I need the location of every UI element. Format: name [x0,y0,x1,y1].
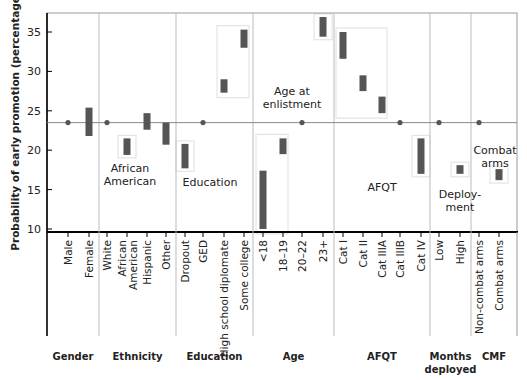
reference-dot [104,120,109,125]
x-tick-label: Other [160,239,172,269]
group-label: deployed [425,364,477,375]
x-tick-label: 23+ [317,240,329,262]
x-tick-label: GED [197,240,209,263]
x-tick-label: Cat IIIA [376,239,388,278]
x-tick-label: Low [433,240,445,261]
x-tick-label: Hispanic [141,240,153,285]
group-annotation: ment [446,201,475,214]
x-tick-label: Cat IIIB [394,240,406,278]
group-annotation: Deploy- [439,188,481,201]
y-tick-label: 25 [27,105,41,118]
group-annotations: AfricanAmericanEducationAge atenlistment… [104,85,517,214]
x-tick-label: Combat arms [493,240,505,311]
range-bar [340,32,347,59]
x-tick-label: Cat IV [415,239,427,271]
reference-dot [397,120,402,125]
range-bar [144,113,151,130]
range-bar [418,138,425,173]
x-tick-label: Female [83,240,95,278]
range-bar [221,79,228,92]
group-annotation: African [111,162,149,175]
x-tick-label: 18–19 [277,240,289,272]
group-label: Ethnicity [113,351,163,362]
chart-canvas: 101520253035 MaleFemaleWhiteAfricanAmeri… [0,0,527,380]
group-annotation: enlistment [263,98,322,111]
x-tick-label: Cat I [337,240,349,264]
x-tick-label: Dropout [179,240,191,282]
x-tick-label: Male [62,240,74,265]
y-axis: 101520253035 [27,26,52,236]
group-label: CMF [482,351,506,362]
y-tick-label: 30 [27,65,41,78]
x-tick-label: <18 [257,240,269,262]
y-tick-label: 35 [27,26,41,39]
x-tick-label: Some college [238,240,250,311]
y-tick-label: 10 [27,223,41,236]
group-label: Education [187,351,243,362]
group-annotation: Combat [473,144,517,157]
y-axis-title: Probability of early promotion (percenta… [9,0,21,251]
x-tick-label: American [127,240,139,290]
range-bar [379,97,386,114]
reference-dot [65,120,70,125]
x-axis: MaleFemaleWhiteAfricanAmericanHispanicOt… [62,232,505,357]
x-tick-label: White [101,240,113,271]
reference-dot [436,120,441,125]
x-tick-label: 20–22 [296,240,308,272]
group-annotation: Age at [274,85,311,98]
early-promotion-chart: 101520253035 MaleFemaleWhiteAfricanAmeri… [0,0,527,380]
group-label: Months [430,351,472,362]
range-bar [241,30,248,48]
range-bar [457,165,464,174]
range-bar [260,171,267,229]
reference-dot [200,120,205,125]
range-bar [182,144,189,168]
group-annotation: Education [183,176,238,189]
range-bar [320,17,327,37]
range-bar [86,108,93,136]
range-bar [280,138,287,154]
group-label: Gender [53,351,94,362]
group-annotation: American [104,175,156,188]
group-annotation: AFQT [367,181,397,194]
range-bar [124,138,131,155]
group-label: Age [283,351,305,362]
x-tick-label: High school diplomate [218,240,230,357]
range-bar [163,123,170,145]
reference-dot [476,120,481,125]
y-tick-label: 15 [27,184,41,197]
y-tick-label: 20 [27,144,41,157]
range-bar [360,75,367,91]
group-annotation: arms [481,157,509,170]
x-tick-label: Cat II [357,240,369,267]
group-labels: GenderEthnicityEducationAgeAFQTMonthsdep… [53,351,507,375]
reference-dot [299,120,304,125]
x-tick-label: Non-combat arms [473,240,485,334]
x-tick-label: High [454,240,466,264]
range-bar [496,169,503,180]
group-label: AFQT [367,351,397,362]
